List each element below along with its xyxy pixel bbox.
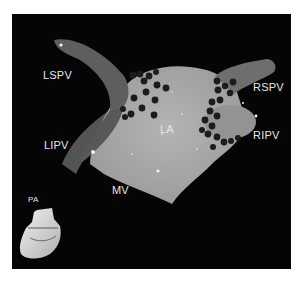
label-mv: MV xyxy=(112,185,129,196)
electroanatomic-map-panel: LSPV LIPV RSPV RIPV LA MV PA xyxy=(12,14,291,269)
label-rspv: RSPV xyxy=(253,82,284,93)
label-pa: PA xyxy=(28,196,38,204)
label-la: LA xyxy=(160,124,174,135)
pa-orientation-heart-icon xyxy=(20,208,61,259)
label-lipv: LIPV xyxy=(44,140,69,151)
label-lspv: LSPV xyxy=(43,70,72,81)
label-ripv: RIPV xyxy=(253,130,279,141)
